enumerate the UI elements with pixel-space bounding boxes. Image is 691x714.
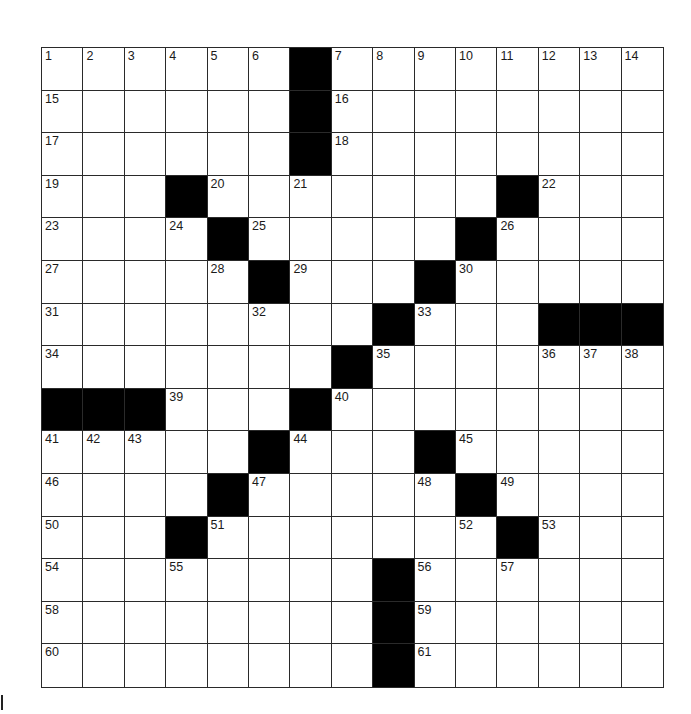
- grid-cell[interactable]: 25: [249, 218, 290, 261]
- grid-cell[interactable]: [580, 474, 621, 517]
- grid-cell[interactable]: 26: [497, 218, 538, 261]
- grid-cell[interactable]: 42: [83, 431, 124, 474]
- grid-cell[interactable]: [415, 133, 456, 176]
- grid-cell[interactable]: [580, 176, 621, 219]
- grid-cell[interactable]: [125, 133, 166, 176]
- grid-cell[interactable]: [497, 261, 538, 304]
- grid-cell[interactable]: [332, 559, 373, 602]
- grid-cell[interactable]: 31: [42, 304, 83, 347]
- grid-cell[interactable]: 38: [622, 346, 663, 389]
- grid-cell[interactable]: [415, 176, 456, 219]
- grid-cell[interactable]: [580, 91, 621, 134]
- grid-cell[interactable]: [373, 474, 414, 517]
- grid-cell[interactable]: [373, 133, 414, 176]
- grid-cell[interactable]: 13: [580, 48, 621, 91]
- grid-cell[interactable]: [622, 431, 663, 474]
- grid-cell[interactable]: 35: [373, 346, 414, 389]
- grid-cell[interactable]: [373, 218, 414, 261]
- grid-cell[interactable]: 23: [42, 218, 83, 261]
- grid-cell[interactable]: [580, 431, 621, 474]
- grid-cell[interactable]: [83, 517, 124, 560]
- grid-cell[interactable]: [249, 91, 290, 134]
- grid-cell[interactable]: [83, 261, 124, 304]
- grid-cell[interactable]: [166, 304, 207, 347]
- grid-cell[interactable]: 6: [249, 48, 290, 91]
- grid-cell[interactable]: [456, 133, 497, 176]
- grid-cell[interactable]: [622, 91, 663, 134]
- grid-cell[interactable]: [415, 218, 456, 261]
- grid-cell[interactable]: [332, 304, 373, 347]
- grid-cell[interactable]: 55: [166, 559, 207, 602]
- grid-cell[interactable]: [166, 346, 207, 389]
- grid-cell[interactable]: [622, 218, 663, 261]
- grid-cell[interactable]: [208, 346, 249, 389]
- grid-cell[interactable]: [208, 389, 249, 432]
- grid-cell[interactable]: [83, 346, 124, 389]
- grid-cell[interactable]: 17: [42, 133, 83, 176]
- grid-cell[interactable]: [208, 91, 249, 134]
- grid-cell[interactable]: 33: [415, 304, 456, 347]
- grid-cell[interactable]: [83, 602, 124, 645]
- grid-cell[interactable]: 51: [208, 517, 249, 560]
- grid-cell[interactable]: [208, 133, 249, 176]
- grid-cell[interactable]: [83, 91, 124, 134]
- grid-cell[interactable]: 12: [539, 48, 580, 91]
- grid-cell[interactable]: [125, 474, 166, 517]
- grid-cell[interactable]: 34: [42, 346, 83, 389]
- grid-cell[interactable]: [373, 261, 414, 304]
- grid-cell[interactable]: 53: [539, 517, 580, 560]
- grid-cell[interactable]: [539, 389, 580, 432]
- grid-cell[interactable]: [208, 559, 249, 602]
- grid-cell[interactable]: [580, 218, 621, 261]
- grid-cell[interactable]: [580, 261, 621, 304]
- grid-cell[interactable]: 58: [42, 602, 83, 645]
- grid-cell[interactable]: [208, 602, 249, 645]
- grid-cell[interactable]: 4: [166, 48, 207, 91]
- grid-cell[interactable]: [125, 218, 166, 261]
- grid-cell[interactable]: 9: [415, 48, 456, 91]
- grid-cell[interactable]: 40: [332, 389, 373, 432]
- grid-cell[interactable]: [332, 218, 373, 261]
- grid-cell[interactable]: [208, 431, 249, 474]
- grid-cell[interactable]: 46: [42, 474, 83, 517]
- grid-cell[interactable]: [497, 133, 538, 176]
- grid-cell[interactable]: 30: [456, 261, 497, 304]
- grid-cell[interactable]: [290, 218, 331, 261]
- grid-cell[interactable]: [290, 517, 331, 560]
- grid-cell[interactable]: [166, 261, 207, 304]
- grid-cell[interactable]: 36: [539, 346, 580, 389]
- grid-cell[interactable]: [290, 346, 331, 389]
- grid-cell[interactable]: 18: [332, 133, 373, 176]
- grid-cell[interactable]: [622, 559, 663, 602]
- grid-cell[interactable]: [249, 602, 290, 645]
- grid-cell[interactable]: [249, 517, 290, 560]
- grid-cell[interactable]: [166, 602, 207, 645]
- grid-cell[interactable]: [539, 261, 580, 304]
- grid-cell[interactable]: [332, 644, 373, 687]
- grid-cell[interactable]: [373, 431, 414, 474]
- grid-cell[interactable]: 45: [456, 431, 497, 474]
- grid-cell[interactable]: 11: [497, 48, 538, 91]
- grid-cell[interactable]: 15: [42, 91, 83, 134]
- grid-cell[interactable]: 50: [42, 517, 83, 560]
- grid-cell[interactable]: [125, 91, 166, 134]
- grid-cell[interactable]: [290, 474, 331, 517]
- grid-cell[interactable]: [373, 517, 414, 560]
- grid-cell[interactable]: [622, 517, 663, 560]
- grid-cell[interactable]: 60: [42, 644, 83, 687]
- grid-cell[interactable]: [415, 346, 456, 389]
- grid-cell[interactable]: [332, 261, 373, 304]
- grid-cell[interactable]: [249, 133, 290, 176]
- grid-cell[interactable]: [497, 346, 538, 389]
- grid-cell[interactable]: [539, 474, 580, 517]
- grid-cell[interactable]: 61: [415, 644, 456, 687]
- grid-cell[interactable]: [456, 304, 497, 347]
- grid-cell[interactable]: [249, 644, 290, 687]
- grid-cell[interactable]: 21: [290, 176, 331, 219]
- grid-cell[interactable]: [290, 559, 331, 602]
- grid-cell[interactable]: [332, 176, 373, 219]
- grid-cell[interactable]: [166, 474, 207, 517]
- grid-cell[interactable]: 20: [208, 176, 249, 219]
- grid-cell[interactable]: [125, 176, 166, 219]
- grid-cell[interactable]: [290, 602, 331, 645]
